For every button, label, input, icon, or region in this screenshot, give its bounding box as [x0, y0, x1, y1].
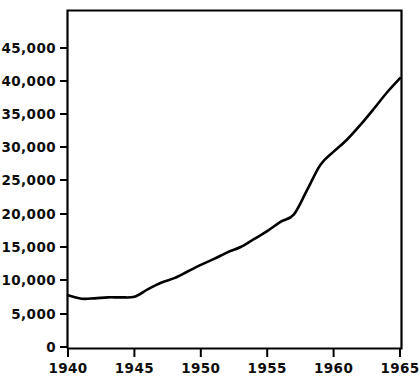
x-tick-label-1940: 1940	[48, 360, 87, 376]
y-tick-label-45000: 45,000	[2, 40, 57, 56]
x-tick-label-1965: 1965	[380, 360, 419, 376]
x-tick-label-1945: 1945	[115, 360, 154, 376]
y-tick-label-30000: 30,000	[2, 139, 57, 155]
chart-canvas: 45,000 40,000 35,000 30,000 25,000 20,00…	[0, 0, 420, 380]
y-tick-label-40000: 40,000	[2, 73, 57, 89]
y-tick-label-15000: 15,000	[2, 239, 57, 255]
chart-background	[0, 0, 420, 380]
y-tick-label-10000: 10,000	[2, 272, 57, 288]
y-tick-label-25000: 25,000	[2, 172, 57, 188]
y-tick-label-5000: 5,000	[11, 306, 56, 322]
x-tick-label-1955: 1955	[248, 360, 287, 376]
y-tick-label-35000: 35,000	[2, 106, 57, 122]
y-tick-label-0: 0	[46, 339, 56, 355]
line-chart-figure: 45,000 40,000 35,000 30,000 25,000 20,00…	[0, 0, 420, 380]
y-tick-label-20000: 20,000	[2, 206, 57, 222]
x-tick-label-1950: 1950	[181, 360, 220, 376]
x-tick-label-1960: 1960	[314, 360, 353, 376]
